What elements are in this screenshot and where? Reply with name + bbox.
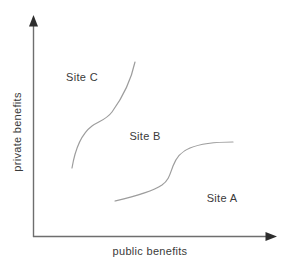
y-axis-arrowhead-icon bbox=[29, 15, 38, 27]
y-axis-label: private benefits bbox=[11, 92, 23, 171]
benefits-diagram: Site C Site B Site A private benefits pu… bbox=[0, 0, 290, 269]
site-c-label: Site C bbox=[66, 71, 98, 83]
x-axis-arrowhead-icon bbox=[266, 232, 278, 241]
site-b-label: Site B bbox=[129, 130, 160, 142]
site-a-label: Site A bbox=[207, 192, 238, 204]
x-axis-label: public benefits bbox=[113, 245, 188, 257]
